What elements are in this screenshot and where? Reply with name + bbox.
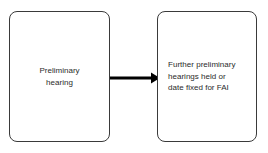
arrow-preliminary-to-further-icon xyxy=(110,69,160,87)
flowchart-canvas: Preliminary hearing Further preliminary … xyxy=(0,0,268,153)
flowchart-node-further-hearings[interactable]: Further preliminary hearings held or dat… xyxy=(157,11,257,142)
flowchart-node-preliminary-hearing[interactable]: Preliminary hearing xyxy=(9,11,110,142)
flowchart-node-label: Preliminary hearing xyxy=(10,65,109,88)
flowchart-node-label: Further preliminary hearings held or dat… xyxy=(158,59,256,94)
